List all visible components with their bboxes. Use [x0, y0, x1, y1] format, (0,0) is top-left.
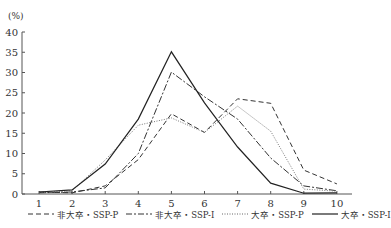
legend-item-univ-ssp-i: 大卒・SSP-I: [312, 208, 391, 220]
series-line-dashdot: [39, 72, 337, 193]
dashed-line-swatch-icon: [28, 211, 54, 217]
series-line-dashed: [39, 99, 337, 193]
dotted-line-swatch-icon: [222, 211, 248, 217]
series-lines: [39, 52, 337, 193]
series-line-solid: [39, 52, 337, 193]
y-tick-label: 25: [5, 87, 18, 98]
x-axis: 12345678910: [22, 191, 352, 209]
legend-item-nonuniv-ssp-p: 非大卒・SSP-P: [28, 208, 118, 220]
y-tick-label: 0: [12, 189, 18, 200]
y-tick-label: 40: [5, 27, 18, 38]
legend-label: 非大卒・SSP-I: [155, 208, 214, 220]
legend-item-univ-ssp-p: 大卒・SSP-P: [222, 208, 303, 220]
y-axis: 0510152025303540: [5, 27, 25, 200]
legend-label: 非大卒・SSP-P: [57, 208, 118, 220]
legend-label: 大卒・SSP-I: [341, 208, 391, 220]
solid-line-swatch-icon: [312, 211, 338, 217]
dashdot-line-swatch-icon: [126, 211, 152, 217]
y-tick-label: 35: [5, 47, 18, 58]
line-chart: (%) 0510152025303540 12345678910: [0, 0, 361, 210]
series-line-dotted: [39, 106, 337, 193]
legend: 非大卒・SSP-P 非大卒・SSP-I 大卒・SSP-P 大卒・SSP-I: [28, 208, 358, 220]
y-tick-label: 10: [5, 148, 18, 159]
y-tick-label: 5: [12, 168, 18, 179]
y-tick-label: 20: [5, 108, 18, 119]
y-axis-unit-label: (%): [8, 11, 24, 21]
legend-item-nonuniv-ssp-i: 非大卒・SSP-I: [126, 208, 214, 220]
y-tick-label: 30: [5, 67, 18, 78]
y-tick-label: 15: [5, 128, 18, 139]
legend-label: 大卒・SSP-P: [251, 208, 303, 220]
